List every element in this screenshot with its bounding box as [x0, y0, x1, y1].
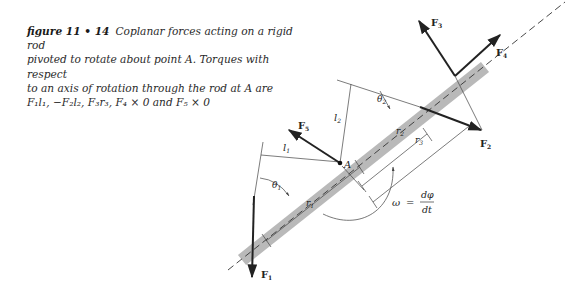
label-f3: F3 [431, 17, 442, 29]
pivot-label: A [343, 159, 351, 170]
pivot-point [338, 161, 343, 166]
force-f1-arrow [252, 196, 254, 277]
label-f2: F2 [480, 138, 491, 150]
label-theta1: θ1 [272, 180, 281, 191]
label-f1: F1 [261, 269, 272, 281]
rod-axis-dashed-line [228, 2, 565, 270]
angle-arcs [260, 91, 390, 196]
svg-text:ω: ω [392, 197, 400, 208]
label-l2: l2 [334, 112, 341, 124]
label-l1: l1 [283, 142, 290, 154]
label-f5: F5 [298, 120, 309, 132]
rod-torque-diagram: A F1 F5 F2 F3 F4 l1 l2 θ1 θ2 r1 r2 r3 ω … [0, 0, 565, 281]
svg-text:dφ: dφ [421, 189, 434, 200]
force-f3-arrow [419, 21, 455, 76]
angular-velocity-equation: ω = dφ dt [392, 189, 434, 215]
svg-text:=: = [406, 197, 414, 208]
svg-text:dt: dt [422, 204, 432, 215]
label-r3: r3 [415, 135, 423, 146]
